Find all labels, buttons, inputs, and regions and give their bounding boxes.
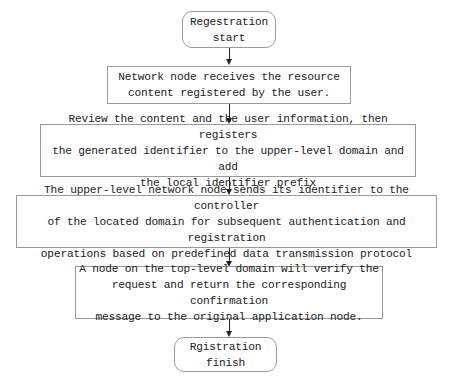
end-node-label: Rgistration finish	[190, 339, 262, 371]
start-node-label: Regestration start	[190, 14, 268, 46]
step-label: Review the content and the user informat…	[41, 111, 415, 191]
step-review-register: Review the content and the user informat…	[40, 124, 416, 177]
arrow-down-icon	[226, 59, 232, 65]
end-node: Rgistration finish	[174, 337, 277, 372]
start-node: Regestration start	[182, 11, 276, 48]
step-label: Network node receives the resource conte…	[118, 69, 339, 101]
step-label: The upper-level network node sends its i…	[17, 182, 436, 262]
step-verify-confirm: A node on the top-level domain will veri…	[75, 266, 383, 319]
step-label: A node on the top-level domain will veri…	[76, 261, 382, 325]
step-send-identifier: The upper-level network node sends its i…	[16, 195, 437, 248]
step-receive-content: Network node receives the resource conte…	[107, 66, 351, 104]
